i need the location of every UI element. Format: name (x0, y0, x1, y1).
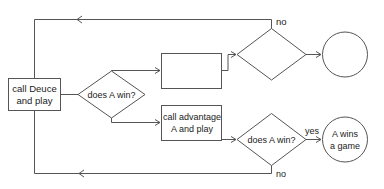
advantage-line2: A and play (161, 123, 223, 135)
deuce-box-label: call Deuce and play (8, 83, 61, 107)
edge-upper-box-to-upper-decision (222, 55, 237, 71)
top-no-label: no (276, 17, 287, 27)
advantage-line1: call advantage (161, 111, 223, 123)
upper-box (162, 54, 222, 89)
edge-decision1-to-advantage (112, 118, 161, 123)
upper-circle (323, 32, 368, 77)
upper-decision-diamond (237, 29, 306, 81)
edge-top-no-loop (35, 20, 272, 79)
win-line2: a game (323, 140, 367, 152)
edge-decision1-to-upper-box (112, 71, 161, 72)
yes-label: yes (305, 126, 319, 136)
edge-bottom-no-loop (35, 111, 272, 174)
advantage-box-label: call advantage A and play (161, 111, 223, 135)
decision2-label: does A win? (239, 134, 304, 146)
edge-advantage-to-decision2 (222, 123, 237, 140)
win-line1: A wins (323, 128, 367, 140)
decision1-label: does A win? (80, 89, 143, 101)
bottom-no-label: no (276, 169, 286, 179)
deuce-line2: and play (8, 95, 61, 107)
deuce-line1: call Deuce (8, 83, 61, 95)
win-circle-label: A wins a game (323, 128, 367, 152)
